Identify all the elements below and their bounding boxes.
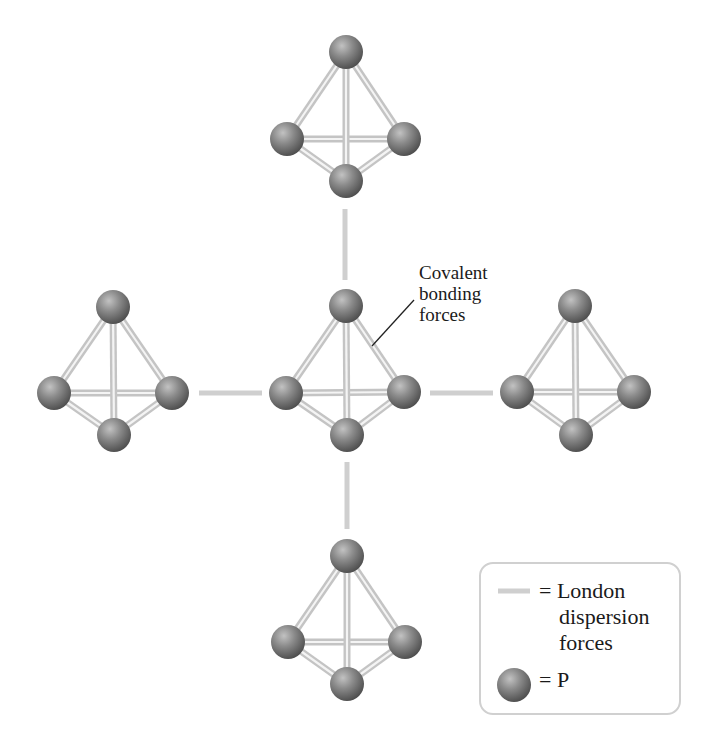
label-line-2: bonding <box>419 283 488 304</box>
covalent-bond-highlight <box>113 307 114 435</box>
phosphorus-atom-icon <box>329 35 363 69</box>
covalent-bond-highlight <box>346 306 347 435</box>
label-line-1: Covalent <box>419 262 488 283</box>
legend-line-1: = London <box>539 578 649 604</box>
molecule-right <box>500 289 651 452</box>
molecule-left <box>37 290 189 452</box>
phosphorus-atom-icon <box>387 375 421 409</box>
phosphorus-atom-icon <box>559 418 593 452</box>
leader-line <box>372 300 414 346</box>
phosphorus-atom-icon <box>270 122 304 156</box>
legend-line-3: forces <box>539 630 649 656</box>
legend-line-2: dispersion <box>539 604 649 630</box>
label-line-3: forces <box>419 304 488 325</box>
molecule-center <box>269 289 421 452</box>
phosphorus-atom-icon <box>388 625 422 659</box>
molecule-top <box>270 35 421 198</box>
phosphorus-atom-icon <box>329 289 363 323</box>
phosphorus-atom-icon <box>330 418 364 452</box>
phosphorus-atom-icon <box>96 290 130 324</box>
phosphorus-atom-icon <box>97 418 131 452</box>
phosphorus-atom-icon <box>329 164 363 198</box>
phosphorus-atom-icon <box>387 122 421 156</box>
phosphorus-atom-icon <box>37 376 71 410</box>
phosphorus-atom-icon <box>558 289 592 323</box>
legend-atom-label: = P <box>539 667 569 693</box>
phosphorus-atom-icon <box>271 625 305 659</box>
diagram-canvas: Covalent bonding forces = London dispers… <box>0 0 720 750</box>
molecule-bottom <box>271 539 422 701</box>
phosphorus-atom-icon <box>269 376 303 410</box>
covalent-annotation-leader <box>372 300 414 346</box>
phosphorus-atom-icon <box>500 375 534 409</box>
phosphorus-atom-icon <box>617 375 651 409</box>
covalent-bonding-label: Covalent bonding forces <box>419 262 488 325</box>
legend-dispersion-label: = London dispersion forces <box>539 578 649 656</box>
phosphorus-atom-icon <box>330 667 364 701</box>
phosphorus-atom-icon <box>330 539 364 573</box>
phosphorus-atom-icon <box>155 376 189 410</box>
covalent-bond-highlight <box>575 306 576 435</box>
